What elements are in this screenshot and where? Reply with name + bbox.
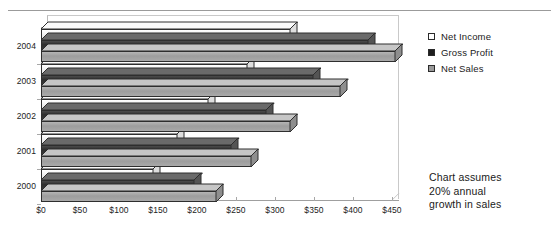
legend-label-net-sales: Net Sales [441, 63, 484, 74]
annotation-line-3: growth in sales [429, 198, 555, 212]
y-axis-label-2001: 2001 [6, 146, 36, 156]
x-axis-label: $200 [187, 205, 206, 215]
chart-legend: Net Income Gross Profit Net Sales [428, 29, 553, 77]
x-axis-tick [353, 197, 354, 201]
bar-end-cap [340, 79, 349, 99]
x-axis-label: $250 [226, 205, 245, 215]
x-axis-tick [275, 197, 276, 201]
bar-end-cap [395, 44, 404, 64]
x-axis-label: $300 [265, 205, 284, 215]
x-axis-label: $350 [304, 205, 323, 215]
x-axis-label: $150 [148, 205, 167, 215]
x-axis-tick [392, 197, 393, 201]
legend-label-gross-profit: Gross Profit [441, 47, 493, 58]
legend-item-gross-profit[interactable]: Gross Profit [428, 45, 553, 59]
annotation-line-2: 20% annual [429, 185, 555, 199]
chart-annotation: Chart assumes 20% annual growth in sales [429, 171, 555, 212]
y-axis-label-2002: 2002 [6, 111, 36, 121]
bar-end-cap [290, 114, 299, 134]
legend-swatch-icon-net-sales [428, 65, 435, 72]
x-axis-label: $50 [73, 205, 87, 215]
bar-end-cap [216, 184, 225, 204]
bar-front-face [41, 156, 252, 167]
bar-front-face [41, 51, 396, 62]
x-axis-label: $100 [109, 205, 128, 215]
legend-item-net-income[interactable]: Net Income [428, 29, 553, 43]
y-axis-label-2000: 2000 [6, 181, 36, 191]
annotation-line-1: Chart assumes [429, 171, 555, 185]
legend-item-net-sales[interactable]: Net Sales [428, 61, 553, 75]
bar-net-sales-2001[interactable] [41, 156, 252, 167]
legend-swatch-icon-net-income [428, 33, 435, 40]
x-axis-label: $0 [36, 205, 46, 215]
x-axis-tick [236, 197, 237, 201]
legend-swatch-icon-gross-profit [428, 49, 435, 56]
y-axis-label-2003: 2003 [6, 76, 36, 86]
bar-front-face [41, 191, 217, 202]
x-axis-tick [314, 197, 315, 201]
bar-net-sales-2002[interactable] [41, 121, 291, 132]
bar-front-face [41, 86, 341, 97]
bar-net-sales-2004[interactable] [41, 51, 396, 62]
bar-net-sales-2000[interactable] [41, 191, 217, 202]
bar-front-face [41, 121, 291, 132]
bar-end-cap [251, 149, 260, 169]
y-axis-label-2004: 2004 [6, 41, 36, 51]
legend-label-net-income: Net Income [441, 31, 491, 42]
cutoff-caption-sliver [60, 0, 500, 4]
x-axis-label: $450 [382, 205, 401, 215]
bar-chart: 20042003200220012000 $0$50$100$150$200$2… [0, 11, 559, 243]
x-axis-label: $400 [343, 205, 362, 215]
bar-net-sales-2003[interactable] [41, 86, 341, 97]
plot-depth-edge-right [392, 193, 401, 201]
